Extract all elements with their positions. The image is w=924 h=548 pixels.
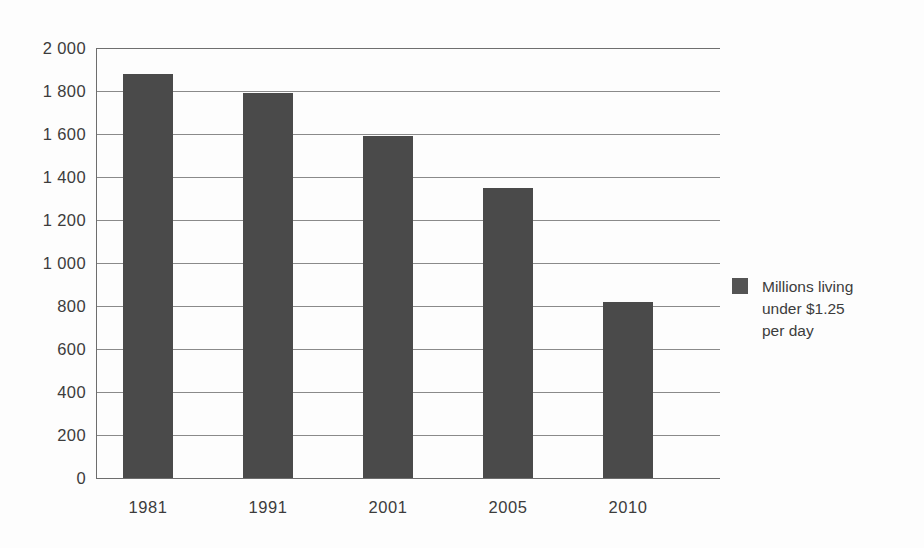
x-axis-line bbox=[96, 478, 720, 479]
bar-2001 bbox=[363, 136, 413, 478]
bar-series bbox=[96, 48, 720, 478]
y-axis-tick-label: 1 600 bbox=[8, 125, 86, 144]
y-axis-tick-label: 1 400 bbox=[8, 168, 86, 187]
legend-label-line-3: per day bbox=[762, 320, 853, 342]
legend-label-line-2: under $1.25 bbox=[762, 298, 853, 320]
bar-1981 bbox=[123, 74, 173, 478]
y-axis-tick-label: 400 bbox=[8, 383, 86, 402]
x-axis-tick-labels: 1981 1991 2001 2005 2010 bbox=[96, 498, 720, 528]
y-axis-tick-label: 1 800 bbox=[8, 82, 86, 101]
y-axis-tick-label: 2 000 bbox=[8, 39, 86, 58]
bar-2010 bbox=[603, 302, 653, 478]
y-axis-tick-label: 800 bbox=[8, 297, 86, 316]
x-axis-tick-label-2001: 2001 bbox=[368, 498, 407, 517]
legend-swatch-icon bbox=[732, 278, 748, 294]
y-axis-tick-label: 1 200 bbox=[8, 211, 86, 230]
y-axis-tick-label: 200 bbox=[8, 426, 86, 445]
x-axis-tick-label-1991: 1991 bbox=[248, 498, 287, 517]
bar-chart: 2 000 1 800 1 600 1 400 1 200 1 000 800 … bbox=[0, 0, 924, 548]
chart-legend: Millions living under $1.25 per day bbox=[732, 276, 912, 342]
legend-label-line-1: Millions living bbox=[762, 276, 853, 298]
legend-label: Millions living under $1.25 per day bbox=[762, 276, 853, 342]
x-axis-tick-label-2005: 2005 bbox=[488, 498, 527, 517]
bar-2005 bbox=[483, 188, 533, 478]
y-axis-tick-label: 1 000 bbox=[8, 254, 86, 273]
x-axis-tick-label-1981: 1981 bbox=[128, 498, 167, 517]
y-axis-tick-labels: 2 000 1 800 1 600 1 400 1 200 1 000 800 … bbox=[0, 48, 86, 478]
bar-1991 bbox=[243, 93, 293, 478]
y-axis-tick-label: 0 bbox=[8, 469, 86, 488]
x-axis-tick-label-2010: 2010 bbox=[608, 498, 647, 517]
y-axis-tick-label: 600 bbox=[8, 340, 86, 359]
